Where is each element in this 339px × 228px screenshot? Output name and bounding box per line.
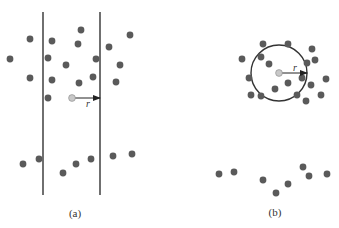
diagram-canvas: (a) (b) r r bbox=[0, 0, 339, 228]
particle bbox=[273, 190, 280, 197]
particle bbox=[266, 61, 273, 68]
test-particle bbox=[69, 95, 76, 102]
particle bbox=[27, 36, 34, 43]
particle bbox=[309, 46, 316, 53]
particle bbox=[117, 62, 124, 69]
particle bbox=[216, 171, 223, 178]
particle bbox=[45, 95, 52, 102]
particle bbox=[106, 44, 113, 51]
particle bbox=[304, 60, 311, 67]
particle bbox=[306, 173, 313, 180]
particle bbox=[63, 62, 70, 69]
panel-a-radius-label: r bbox=[86, 98, 90, 109]
particle bbox=[90, 74, 97, 81]
particle bbox=[93, 56, 100, 63]
particle bbox=[36, 156, 43, 163]
particle bbox=[260, 41, 267, 48]
particle bbox=[60, 170, 67, 177]
particle bbox=[299, 75, 306, 82]
particle bbox=[303, 98, 310, 105]
panel-a bbox=[7, 12, 136, 195]
particle bbox=[75, 41, 82, 48]
particle bbox=[285, 41, 292, 48]
particle bbox=[49, 77, 56, 84]
particle bbox=[318, 92, 325, 99]
particle bbox=[300, 164, 307, 171]
particle bbox=[110, 153, 117, 160]
particle bbox=[7, 56, 14, 63]
particle bbox=[312, 57, 319, 64]
panel-b bbox=[216, 41, 331, 197]
particle bbox=[45, 55, 52, 62]
particle bbox=[323, 76, 330, 83]
test-particle bbox=[276, 70, 283, 77]
particle bbox=[324, 171, 331, 178]
particle bbox=[272, 86, 279, 93]
particle bbox=[113, 79, 120, 86]
particle bbox=[239, 56, 246, 63]
particle bbox=[20, 161, 27, 168]
particle bbox=[27, 75, 34, 82]
particle bbox=[73, 161, 80, 168]
particle bbox=[231, 169, 238, 176]
particle bbox=[285, 80, 292, 87]
particle bbox=[246, 75, 253, 82]
particle bbox=[258, 93, 265, 100]
particle bbox=[76, 80, 83, 87]
particle bbox=[258, 54, 265, 61]
panel-b-radius-label: r bbox=[293, 62, 297, 73]
particle bbox=[260, 177, 267, 184]
particle bbox=[127, 32, 134, 39]
particle bbox=[49, 38, 56, 45]
particle bbox=[294, 92, 301, 99]
particle bbox=[129, 151, 136, 158]
particle bbox=[88, 156, 95, 163]
particle bbox=[78, 27, 85, 34]
particle bbox=[308, 82, 315, 89]
particle bbox=[248, 92, 255, 99]
panel-a-label: (a) bbox=[69, 207, 82, 220]
particle bbox=[285, 181, 292, 188]
panel-b-label: (b) bbox=[269, 206, 282, 219]
